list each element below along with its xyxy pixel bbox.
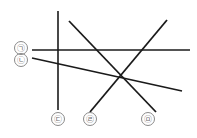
label-ga-text: ㉠ <box>17 44 25 53</box>
line-ra <box>69 21 156 112</box>
label-da: ㉢ <box>52 113 65 126</box>
label-ga: ㉠ <box>15 42 28 55</box>
label-na-text: ㉡ <box>17 56 25 65</box>
label-ma: ㉤ <box>142 113 155 126</box>
label-ra: ㉣ <box>84 113 97 126</box>
label-ma-text: ㉤ <box>144 115 152 124</box>
line-ma <box>90 20 167 112</box>
figure-canvas: ㉠ ㉡ ㉢ ㉣ ㉤ <box>0 0 197 138</box>
label-na: ㉡ <box>15 54 28 67</box>
label-ra-text: ㉣ <box>86 115 94 124</box>
label-da-text: ㉢ <box>54 115 62 124</box>
line-na <box>32 58 182 91</box>
geometry-figure: ㉠ ㉡ ㉢ ㉣ ㉤ <box>0 0 197 138</box>
